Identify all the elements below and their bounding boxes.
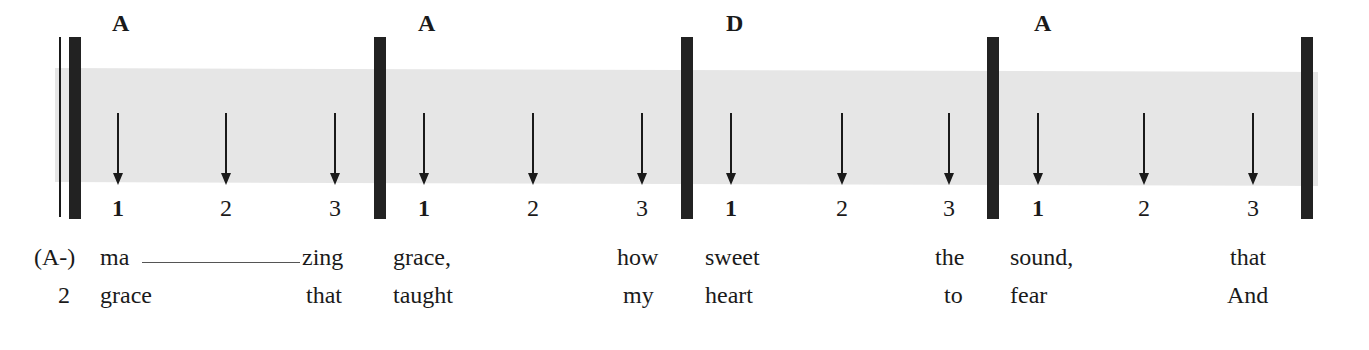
down-arrow-icon bbox=[836, 113, 848, 185]
barline-2 bbox=[681, 37, 693, 219]
down-arrow-icon bbox=[418, 113, 430, 185]
lyric-word: that bbox=[306, 282, 342, 309]
down-arrow-icon bbox=[943, 113, 955, 185]
barline-1 bbox=[374, 37, 386, 219]
lyric-word: to bbox=[944, 282, 963, 309]
lyric-word: And bbox=[1227, 282, 1268, 309]
lyric-word: my bbox=[623, 282, 654, 309]
beat-number: 2 bbox=[836, 195, 848, 222]
down-arrow-icon bbox=[725, 113, 737, 185]
lyric-word: fear bbox=[1010, 282, 1047, 309]
beat-number: 3 bbox=[1247, 195, 1259, 222]
down-arrow-icon bbox=[636, 113, 648, 185]
lyric-word: ma bbox=[100, 244, 129, 271]
lyric-word: that bbox=[1230, 244, 1266, 271]
barline-end bbox=[1301, 37, 1313, 219]
down-arrow-icon bbox=[1247, 113, 1259, 185]
down-arrow-icon bbox=[112, 113, 124, 185]
lyric-word: how bbox=[617, 244, 658, 271]
beat-number: 3 bbox=[329, 195, 341, 222]
chord-label-measure-2: A bbox=[418, 10, 435, 37]
lyric-word: zing bbox=[302, 244, 343, 271]
beat-number: 1 bbox=[418, 195, 430, 222]
start-thin-barline bbox=[59, 37, 61, 217]
lyric-word: taught bbox=[393, 282, 453, 309]
chord-label-measure-3: D bbox=[726, 10, 743, 37]
beat-number: 3 bbox=[636, 195, 648, 222]
lyric-pickup: (A-) bbox=[34, 244, 75, 271]
down-arrow-icon bbox=[527, 113, 539, 185]
lyric-word: grace bbox=[100, 282, 152, 309]
beat-number: 1 bbox=[112, 195, 124, 222]
down-arrow-icon bbox=[1032, 113, 1044, 185]
lyric-word: the bbox=[935, 244, 964, 271]
chord-label-measure-4: A bbox=[1034, 10, 1051, 37]
down-arrow-icon bbox=[220, 113, 232, 185]
melisma-line bbox=[142, 262, 300, 263]
beat-number: 3 bbox=[943, 195, 955, 222]
beat-number: 1 bbox=[1032, 195, 1044, 222]
beat-number: 2 bbox=[527, 195, 539, 222]
beat-number: 2 bbox=[1138, 195, 1150, 222]
beat-number: 1 bbox=[725, 195, 737, 222]
barline-3 bbox=[987, 37, 999, 219]
down-arrow-icon bbox=[1138, 113, 1150, 185]
lyric-word: sweet bbox=[705, 244, 760, 271]
barline-start bbox=[69, 37, 81, 219]
lyric-word: heart bbox=[705, 282, 753, 309]
lyric-word: sound, bbox=[1010, 244, 1073, 271]
chord-label-measure-1: A bbox=[112, 10, 129, 37]
lyric-verse-number: 2 bbox=[58, 282, 70, 309]
beat-number: 2 bbox=[220, 195, 232, 222]
lyric-word: grace, bbox=[393, 244, 451, 271]
down-arrow-icon bbox=[329, 113, 341, 185]
